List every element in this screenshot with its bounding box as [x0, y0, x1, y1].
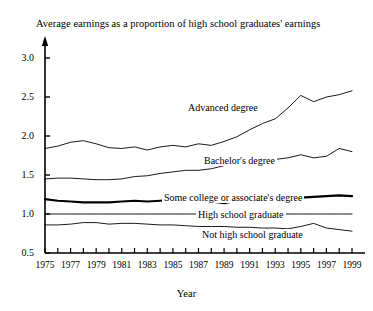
series-label: Advanced degree	[186, 102, 260, 113]
x-tick-label: 1999	[337, 260, 367, 270]
series-label: Some college or associate's degree	[162, 192, 304, 203]
y-tick-label: 3.0	[8, 52, 34, 63]
y-tick-label: 1.0	[8, 208, 34, 219]
y-axis-arrow	[42, 36, 48, 46]
y-tick-label: 2.0	[8, 130, 34, 141]
y-tick-label: 2.5	[8, 91, 34, 102]
x-axis-title: Year	[0, 288, 373, 299]
y-tick-label: 0.5	[8, 247, 34, 258]
series-label: Not high school graduate	[200, 229, 305, 240]
series-label: High school graduate	[196, 209, 286, 220]
y-tick-label: 1.5	[8, 169, 34, 180]
series-line-4	[45, 223, 352, 232]
series-line-1	[45, 148, 352, 179]
series-label: Bachelor's degree	[202, 155, 277, 166]
series-line-0	[45, 91, 352, 150]
earnings-line-chart: Average earnings as a proportion of high…	[0, 0, 373, 311]
